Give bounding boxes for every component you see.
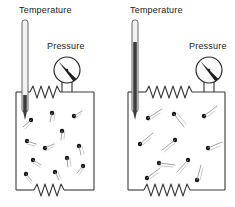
right-diagram-svg	[118, 0, 235, 207]
particle	[177, 158, 190, 174]
particle	[206, 142, 222, 151]
pressure-gauge-right	[196, 57, 222, 92]
particle	[53, 170, 61, 180]
particle	[202, 106, 217, 119]
particle	[31, 158, 41, 167]
particle	[65, 156, 71, 167]
particle	[77, 164, 85, 175]
particle	[77, 144, 84, 155]
particle	[24, 172, 32, 183]
particle	[50, 111, 55, 122]
diagram-canvas: Temperature Pressure	[0, 0, 235, 207]
particle	[72, 111, 82, 119]
panel-high-temperature: Temperature Pressure	[118, 0, 235, 207]
particle	[146, 109, 162, 121]
particle	[162, 138, 177, 152]
thermometer-left	[22, 20, 28, 120]
particle	[43, 144, 54, 151]
particle-group-right	[138, 106, 222, 182]
particle	[172, 112, 186, 127]
particle	[23, 118, 33, 129]
particle	[138, 133, 153, 147]
particle	[60, 129, 65, 140]
particle	[145, 168, 160, 181]
particle	[157, 161, 175, 167]
left-diagram-svg	[0, 0, 117, 207]
thermometer-right	[132, 20, 138, 120]
particle	[25, 139, 36, 146]
panel-low-temperature: Temperature Pressure	[0, 0, 117, 207]
particle	[195, 165, 203, 182]
particle-group-left	[23, 111, 85, 183]
